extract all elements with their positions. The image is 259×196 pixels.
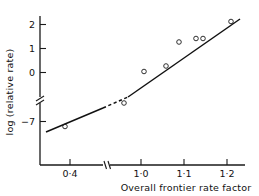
y-tick-label-minus7: −7 [21,116,35,127]
fit-line-lower-solid [46,108,103,132]
y-axis-title: log (relative rate) [4,49,15,136]
data-point [164,64,169,69]
scatter-plot: 2 1 0 −7 log (relative rate) 0·4 1·0 1·1… [0,0,259,196]
data-point [177,40,182,45]
data-point [142,69,147,74]
data-point [229,19,234,24]
y-tick-label-0: 0 [29,67,35,78]
x-tick-label-1-2: 1·2 [219,168,234,179]
data-point [63,124,68,129]
data-point [194,36,199,41]
x-tick-label-0-4: 0·4 [62,168,77,179]
data-point [201,36,206,41]
x-tick-label-1-1: 1·1 [176,168,191,179]
y-tick-label-1: 1 [29,43,35,54]
y-tick-label-2: 2 [29,19,35,30]
x-axis-title: Overall frontier rate factor [121,182,252,193]
data-point [122,101,127,106]
x-axis-break-mark-left [104,161,107,169]
fit-line-upper-solid [128,19,240,97]
fit-line-break-dashed [103,97,128,108]
figure-container: 2 1 0 −7 log (relative rate) 0·4 1·0 1·1… [0,0,259,196]
x-tick-label-1-0: 1·0 [133,168,148,179]
